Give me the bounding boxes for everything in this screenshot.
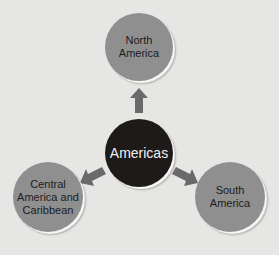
arrow-down-left-icon	[80, 165, 106, 187]
node-label: Central America and Caribbean	[17, 178, 79, 217]
hub-diagram: North America Americas Central America a…	[0, 0, 279, 255]
arrow-down-right-icon	[172, 165, 198, 187]
arrow-up-icon	[130, 88, 148, 113]
node-south-america: South America	[195, 162, 265, 232]
node-central-america-caribbean: Central America and Caribbean	[13, 162, 83, 232]
node-label: South America	[205, 184, 255, 210]
node-label: North America	[114, 34, 164, 60]
node-americas-center: Americas	[105, 119, 173, 187]
node-north-america: North America	[105, 13, 173, 81]
center-label: Americas	[110, 145, 168, 161]
